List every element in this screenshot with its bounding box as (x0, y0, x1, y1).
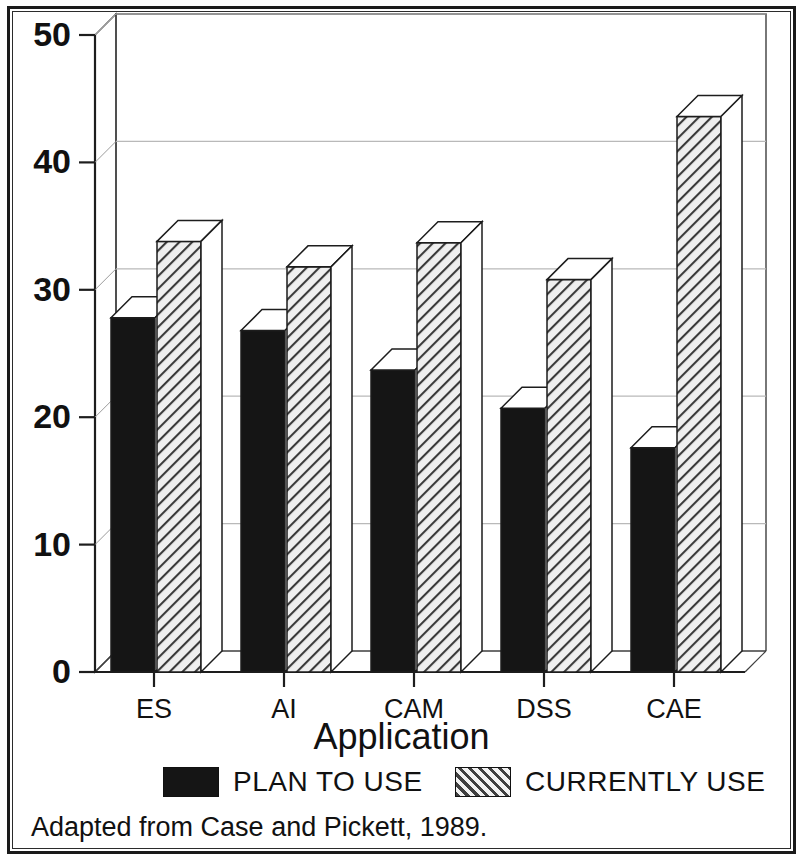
bar-plan-to-use (111, 318, 155, 672)
y-axis-tick-label: 50 (0, 17, 71, 51)
bar-plan-to-use (501, 408, 545, 672)
y-axis-tick-label: 20 (0, 399, 71, 433)
legend-label-currently-use: CURRENTLY USE (525, 766, 765, 798)
legend-label-plan-to-use: PLAN TO USE (233, 766, 423, 798)
bar-currently-use (157, 241, 201, 672)
figure: 50403020100 ESAICAMDSSCAE Application PL… (0, 0, 803, 866)
bar-currently-use-side (331, 246, 352, 672)
bar-plan-to-use (631, 448, 675, 672)
y-axis-tick-label: 30 (0, 272, 71, 306)
bar-currently-use (417, 243, 461, 672)
bar-plan-to-use (371, 370, 415, 672)
legend-swatch-currently-use (455, 767, 511, 797)
plot-right-floor-edge (745, 651, 766, 672)
legend-swatch-plan-to-use (163, 767, 219, 797)
bar-currently-use (677, 117, 721, 672)
bar-currently-use-side (461, 222, 482, 672)
y-grid-connector (95, 14, 116, 35)
bar-currently-use (287, 267, 331, 672)
figure-caption: Adapted from Case and Pickett, 1989. (31, 812, 731, 843)
y-axis-tick-label: 0 (0, 654, 71, 688)
y-axis-tick-label: 40 (0, 144, 71, 178)
y-grid-connector (95, 141, 116, 162)
legend-item-plan-to-use: PLAN TO USE (163, 766, 423, 798)
bar-currently-use (547, 280, 591, 672)
chart-legend: PLAN TO USE CURRENTLY USE (0, 766, 803, 806)
y-grid-connector (95, 269, 116, 290)
legend-item-currently-use: CURRENTLY USE (455, 766, 765, 798)
bar-currently-use-side (721, 96, 742, 672)
x-axis-title: Application (0, 716, 803, 758)
bar-currently-use-side (201, 220, 222, 672)
bar-currently-use-side (591, 259, 612, 672)
bar-plan-to-use (241, 331, 285, 672)
y-axis-tick-label: 10 (0, 527, 71, 561)
